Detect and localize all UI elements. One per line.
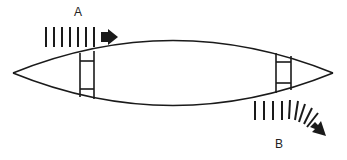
flow-a: A — [46, 5, 118, 47]
right-frame — [276, 53, 291, 93]
lens-bottom-curve — [13, 73, 333, 106]
label-a: A — [74, 5, 82, 19]
label-b: B — [275, 137, 283, 151]
lens-flow-diagram: A B — [0, 0, 347, 160]
left-frame — [80, 51, 94, 99]
arrow-down-right-icon — [310, 121, 326, 136]
flow-b: B — [255, 100, 326, 151]
arrow-right-icon — [101, 29, 118, 45]
flow-a-dashes — [46, 27, 94, 47]
flow-b-dashes — [255, 100, 318, 127]
lens-body — [13, 41, 333, 106]
